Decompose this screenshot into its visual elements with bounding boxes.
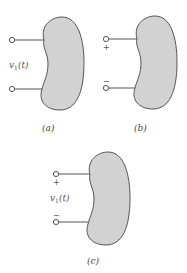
plus-sign: + [53, 178, 60, 187]
bottom-terminal [53, 219, 58, 224]
network-blob [87, 152, 130, 245]
figure-b: + − (b) [103, 16, 177, 133]
minus-sign: − [53, 211, 60, 220]
diagram-canvas: v1(t) (a) + − (b) + v1(t) − (c) [0, 0, 187, 273]
figure-c: + v1(t) − (c) [50, 152, 130, 266]
caption-b: (b) [134, 123, 147, 133]
plus-sign: + [103, 43, 110, 52]
minus-sign: − [103, 77, 110, 86]
caption-a: (a) [42, 123, 55, 133]
voltage-label: v1(t) [9, 60, 29, 71]
network-blob [41, 17, 84, 110]
network-blob [134, 16, 177, 109]
voltage-label: v1(t) [50, 193, 70, 204]
top-terminal [103, 36, 108, 41]
top-terminal [9, 37, 14, 42]
top-terminal [53, 171, 58, 176]
caption-c: (c) [87, 256, 100, 266]
figure-a: v1(t) (a) [9, 17, 84, 133]
bottom-terminal [9, 86, 14, 91]
bottom-terminal [103, 85, 108, 90]
